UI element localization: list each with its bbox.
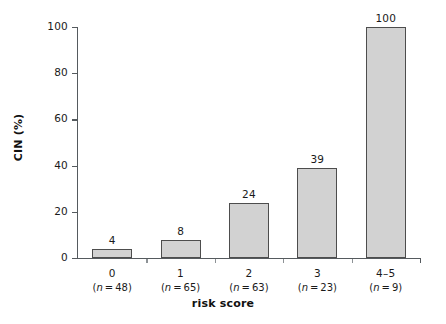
x-axis-category-count: (n = 48) <box>78 282 146 295</box>
bar <box>366 27 406 258</box>
x-axis-category-count: (n = 65) <box>146 282 214 295</box>
y-axis-tick-label-wrap: 0 <box>0 252 68 264</box>
x-axis-category-count: (n = 23) <box>283 282 351 295</box>
bar <box>229 203 269 258</box>
x-axis-tick <box>146 259 147 264</box>
x-axis-category-name: 2 <box>215 267 283 280</box>
x-axis-tick <box>283 259 284 264</box>
y-axis-tick-label-wrap: 20 <box>0 206 68 218</box>
y-axis-tick-label-wrap: 60 <box>0 113 68 125</box>
x-axis-tick <box>352 259 353 264</box>
bar-value-label: 24 <box>229 189 269 200</box>
bar-value-label: 39 <box>297 154 337 165</box>
x-axis-tick <box>215 259 216 264</box>
x-axis-category-label: 4–5(n = 9) <box>352 267 420 295</box>
y-axis-tick-label: 0 <box>0 252 68 263</box>
y-axis-tick-label: 60 <box>0 113 68 124</box>
plot-area <box>78 27 420 258</box>
x-axis-category-name: 1 <box>146 267 214 280</box>
y-axis-tick-label: 40 <box>0 160 68 171</box>
y-axis-tick-label-wrap: 40 <box>0 160 68 172</box>
x-axis-title: risk score <box>0 297 446 310</box>
x-axis-category-label: 3(n = 23) <box>283 267 351 295</box>
x-axis-category-name: 0 <box>78 267 146 280</box>
x-axis-category-count: (n = 9) <box>352 282 420 295</box>
y-axis-title: CIN (%) <box>12 98 25 178</box>
y-axis-tick-label: 20 <box>0 206 68 217</box>
x-axis-category-label: 1(n = 65) <box>146 267 214 295</box>
x-axis-category-name: 4–5 <box>352 267 420 280</box>
x-axis-category-label: 2(n = 63) <box>215 267 283 295</box>
chart-figure: 020406080100 482439100 0(n = 48)1(n = 65… <box>0 0 446 324</box>
x-axis-end-tick <box>420 258 421 263</box>
x-axis-category-label: 0(n = 48) <box>78 267 146 295</box>
bar <box>297 168 337 258</box>
y-axis-tick-label: 80 <box>0 67 68 78</box>
bar-value-label: 100 <box>366 13 406 24</box>
x-axis-category-name: 3 <box>283 267 351 280</box>
bar <box>161 240 201 258</box>
bar-value-label: 8 <box>161 226 201 237</box>
bar-value-label: 4 <box>92 235 132 246</box>
y-axis-tick-label: 100 <box>0 21 68 32</box>
x-axis-category-count: (n = 63) <box>215 282 283 295</box>
y-axis-tick-label-wrap: 80 <box>0 67 68 79</box>
bar <box>92 249 132 258</box>
y-axis-tick-label-wrap: 100 <box>0 21 68 33</box>
